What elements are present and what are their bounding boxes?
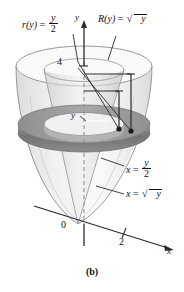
inner-radius-function: r(y) (22, 19, 37, 30)
inner-radius-numerator: y (49, 13, 58, 23)
inner-radius-denominator: 2 (49, 23, 58, 34)
y-axis-arrowhead (81, 20, 87, 28)
washer-method-figure (0, 0, 184, 292)
inner-radius-label: r(y) = y 2 (22, 13, 59, 34)
radical-bar-icon (149, 189, 162, 190)
washer-height-label: y (71, 110, 75, 120)
y-axis-label: y (75, 12, 79, 22)
line-equation-label: x = y 2 (126, 158, 152, 179)
outer-radius-label: R(y) = √y (98, 13, 146, 24)
inner-radius-equals: = (40, 19, 46, 30)
x-tick-label-2: 2 (119, 236, 124, 247)
x-axis (34, 206, 174, 251)
line-equation-denominator: 2 (142, 168, 151, 179)
outer-radius-equals: = (118, 13, 124, 24)
line-equation-equals: = (133, 164, 139, 175)
inner-radius-fraction: y 2 (49, 13, 58, 34)
x-axis-label: x (167, 246, 171, 256)
figure-caption: (b) (0, 266, 184, 277)
line-equation-lhs: x (126, 164, 130, 175)
outer-radius-radical: √y (126, 13, 146, 24)
parabola-equation-radical: √y (141, 188, 161, 199)
radical-bar-icon (134, 14, 147, 15)
radical-sign-icon: √ (142, 188, 148, 199)
line-equation-fraction: y 2 (142, 158, 151, 179)
parabola-equation-lhs: x (126, 188, 130, 199)
parabola-equation-label: x = √y (126, 188, 161, 199)
parabola-equation-equals: = (133, 188, 139, 199)
line-equation-numerator: y (142, 158, 151, 168)
outer-radius-function: R(y) (98, 13, 115, 24)
origin-label: 0 (61, 219, 66, 230)
y-tick-label-4: 4 (57, 56, 62, 67)
